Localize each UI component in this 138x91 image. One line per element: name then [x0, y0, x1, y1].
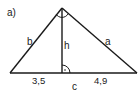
side-a-line	[62, 8, 137, 73]
side-b-line	[10, 8, 62, 73]
right-angle-dot	[64, 69, 66, 71]
triangle-diagram: a) b h a 3,5 c 4,9	[0, 0, 138, 91]
segment-right-label: 4,9	[94, 75, 107, 86]
foot-right-angle-arc	[62, 65, 70, 73]
segment-left-label: 3,5	[32, 75, 45, 86]
side-a-label: a	[105, 36, 111, 47]
side-b-label: b	[27, 36, 33, 47]
hypotenuse-c-label: c	[72, 81, 77, 91]
altitude-h-label: h	[64, 40, 70, 51]
part-label: a)	[7, 7, 16, 18]
